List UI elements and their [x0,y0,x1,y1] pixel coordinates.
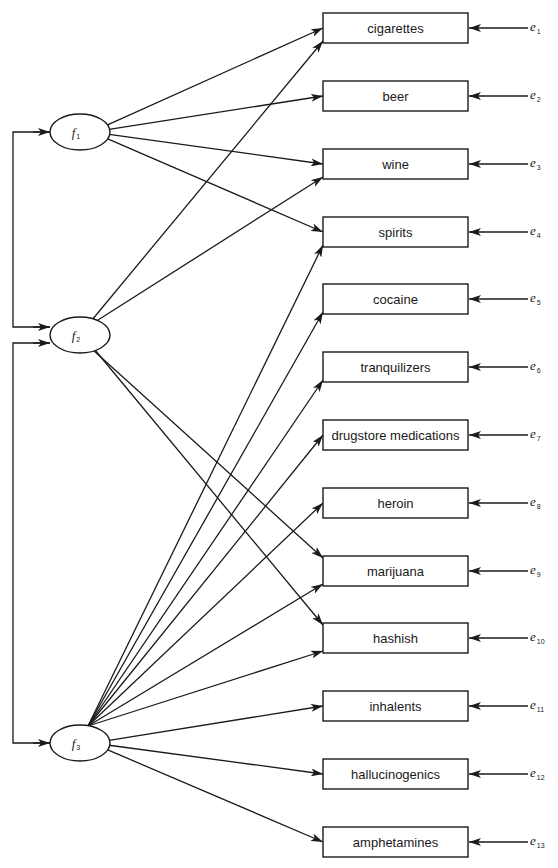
indicator-amphetamines: amphetamines [323,827,468,857]
loading-f3-hashish [88,651,323,726]
error-5: e5 [469,290,541,306]
error-8: e8 [469,494,541,510]
loading-f3-spirits [88,245,323,726]
loading-f1-beer [109,96,323,129]
loading-f2-marijuana [93,350,323,558]
loading-f1-cigarettes [107,28,323,125]
loading-f1-spirits [107,139,323,232]
indicator-label: hallucinogenics [351,767,440,782]
error-label: e6 [530,358,541,374]
indicator-wine: wine [323,149,468,179]
indicator-label: hashish [373,631,418,646]
path-diagram: e1e2e3e4e5e6e7e8e9e10e11e12e13 cigarette… [0,0,558,868]
error-label: e13 [530,833,545,849]
indicator-label: inhalents [369,699,422,714]
indicator-boxes: cigarettesbeerwinespiritscocainetranquil… [323,13,468,857]
error-label: e4 [530,223,541,239]
correlation-f1-f2 [13,132,50,327]
indicator-label: wine [381,157,409,172]
indicator-marijuana: marijuana [323,556,468,586]
loading-f3-tranquilizers [88,380,323,726]
indicator-spirits: spirits [323,217,468,247]
loading-f1-wine [109,134,323,164]
loading-f3-inhalents [109,706,323,740]
error-label: e12 [530,765,545,781]
error-3: e3 [469,155,541,171]
factor-loadings [88,28,323,842]
factor-f3: f3 [50,725,110,761]
latent-factors: f1f2f3 [50,114,110,761]
loading-f3-drugstore [88,435,323,726]
indicator-cocaine: cocaine [323,284,468,314]
loading-f3-amphetamines [107,750,323,842]
indicator-inhalents: inhalents [323,691,468,721]
indicator-tranquilizers: tranquilizers [323,352,468,382]
error-2: e2 [469,87,541,103]
error-label: e7 [530,426,541,442]
error-7: e7 [469,426,541,442]
loading-f2-cigarettes [92,41,323,320]
indicator-label: spirits [379,225,413,240]
error-label: e3 [530,155,541,171]
loading-f3-heroin [88,503,323,726]
error-terms: e1e2e3e4e5e6e7e8e9e10e11e12e13 [469,19,545,849]
error-label: e2 [530,87,541,103]
indicator-drugstore: drugstore medications [323,420,468,450]
factor-f2: f2 [50,317,110,353]
indicator-label: beer [382,89,409,104]
loading-f2-wine [98,177,323,320]
indicator-label: heroin [377,496,413,511]
error-label: e1 [530,19,541,35]
error-11: e11 [469,697,544,713]
error-label: e9 [530,562,541,578]
factor-f1: f1 [50,114,110,150]
correlation-f2-f3 [13,343,50,743]
indicator-beer: beer [323,81,468,111]
indicator-label: marijuana [367,564,425,579]
indicator-label: cocaine [373,292,418,307]
error-label: e8 [530,494,541,510]
indicator-label: cigarettes [367,21,424,36]
error-1: e1 [469,19,541,35]
factor-correlations [13,132,50,743]
error-4: e4 [469,223,541,239]
loading-f3-hallucinogenics [109,745,323,774]
indicator-label: drugstore medications [332,428,460,443]
error-6: e6 [469,358,541,374]
error-12: e12 [469,765,545,781]
indicator-cigarettes: cigarettes [323,13,468,43]
indicator-hashish: hashish [323,623,468,653]
error-label: e11 [530,697,544,713]
error-label: e10 [530,629,545,645]
error-9: e9 [469,562,541,578]
loading-f3-cocaine [88,312,323,726]
error-13: e13 [469,833,545,849]
indicator-label: amphetamines [353,835,439,850]
loading-f2-hashish [95,350,323,625]
indicator-label: tranquilizers [360,360,431,375]
indicator-heroin: heroin [323,488,468,518]
error-label: e5 [530,290,541,306]
error-10: e10 [469,629,545,645]
indicator-hallucinogenics: hallucinogenics [323,759,468,789]
